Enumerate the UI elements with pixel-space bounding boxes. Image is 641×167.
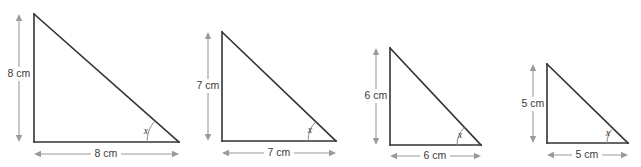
triangle-4-angle-label: x [605,127,611,138]
triangle-2-horizontal-label: 7 cm [268,146,291,158]
triangle-4: x5 cm5 cm [520,64,628,162]
triangle-1-horizontal-label: 8 cm [95,147,118,159]
triangle-4-vertical-dimension-arrow-bottom [530,136,536,143]
triangle-3: x6 cm6 cm [363,48,481,163]
triangle-1-vertical-dimension-arrow-bottom [16,135,22,142]
triangle-1-horizontal-dimension-arrow-left [34,151,41,157]
triangles-diagram: x8 cm8 cmx7 cm7 cmx6 cm6 cmx5 cm5 cm [0,0,641,167]
triangle-1-vertical-dimension-arrow-top [16,14,22,21]
geometry-figure: x8 cm8 cmx7 cm7 cmx6 cm6 cmx5 cm5 cm [0,0,641,167]
triangle-2: x7 cm7 cm [195,32,336,160]
triangle-2-vertical-label: 7 cm [197,79,220,91]
triangle-4-vertical-label: 5 cm [522,97,545,109]
triangle-2-horizontal-dimension-arrow-left [222,150,229,156]
triangle-3-hypotenuse [390,48,481,145]
triangle-1-vertical-label: 8 cm [8,67,31,79]
triangle-2-vertical-dimension-arrow-bottom [205,134,211,141]
triangle-3-horizontal-dimension-arrow-right [474,153,481,159]
triangle-3-vertical-dimension-arrow-bottom [373,138,379,145]
triangle-3-horizontal-dimension-arrow-left [390,153,397,159]
triangle-1-hypotenuse [34,14,179,142]
triangle-4-horizontal-label: 5 cm [576,148,599,160]
triangle-3-vertical-label: 6 cm [365,89,388,101]
triangle-4-vertical-dimension-arrow-top [530,64,536,71]
triangle-2-hypotenuse [222,32,336,141]
triangle-1-angle-label: x [143,125,149,136]
triangle-1-horizontal-dimension-arrow-right [172,151,179,157]
triangle-3-vertical-dimension-arrow-top [373,48,379,55]
triangle-2-angle-label: x [307,124,313,135]
triangle-2-horizontal-dimension-arrow-right [329,150,336,156]
triangle-4-horizontal-dimension-arrow-right [621,152,628,158]
triangle-2-vertical-dimension-arrow-top [205,32,211,39]
triangle-4-hypotenuse [547,64,628,143]
triangle-4-horizontal-dimension-arrow-left [547,152,554,158]
triangle-3-angle-label: x [457,129,463,140]
triangle-1: x8 cm8 cm [6,14,179,161]
triangle-3-horizontal-label: 6 cm [424,149,447,161]
